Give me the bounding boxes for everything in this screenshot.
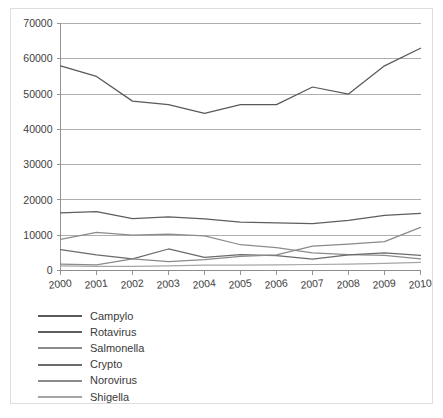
legend-line-swatch-icon <box>38 380 82 382</box>
legend-line-swatch-icon <box>38 396 82 398</box>
legend-item-rotavirus[interactable]: Rotavirus <box>38 324 298 340</box>
y-tick-label: 60000 <box>23 52 52 64</box>
legend-line-swatch-icon <box>38 347 82 349</box>
x-tick-label: 2008 <box>336 276 361 290</box>
legend-item-label: Campylo <box>90 311 133 322</box>
y-tick-label: 70000 <box>23 17 52 29</box>
y-tick-label: 40000 <box>23 123 52 135</box>
legend-line-swatch-icon <box>38 331 82 333</box>
legend-item-label: Crypto <box>90 359 122 370</box>
legend-item-crypto[interactable]: Crypto <box>38 357 298 373</box>
y-tick-label: 0 <box>47 264 53 276</box>
y-tick-label: 10000 <box>23 229 52 241</box>
series-line-campylo <box>61 48 421 113</box>
legend-item-label: Norovirus <box>90 375 137 386</box>
x-tick-label: 2000 <box>48 276 73 290</box>
y-tick-label: 20000 <box>23 194 52 206</box>
series-lines <box>61 48 421 266</box>
x-tick-label: 2003 <box>156 276 181 290</box>
legend-line-swatch-icon <box>38 315 82 317</box>
x-tick-label: 2001 <box>84 276 109 290</box>
legend-item-campylo[interactable]: Campylo <box>38 308 298 324</box>
legend-item-label: Rotavirus <box>90 327 136 338</box>
x-tick-label: 2006 <box>264 276 289 290</box>
legend-item-norovirus[interactable]: Norovirus <box>38 373 298 389</box>
legend-item-shigella[interactable]: Shigella <box>38 389 298 405</box>
series-line-norovirus <box>61 227 421 264</box>
series-line-shigella <box>61 262 421 266</box>
axis-tickmarks <box>57 24 421 275</box>
legend-item-salmonella[interactable]: Salmonella <box>38 340 298 356</box>
y-tick-label: 50000 <box>23 88 52 100</box>
legend-item-label: Salmonella <box>90 343 144 354</box>
x-tick-label: 2007 <box>300 276 325 290</box>
line-chart-plot: 010000200003000040000500006000070000 200… <box>0 0 443 300</box>
x-tick-label: 2004 <box>192 276 217 290</box>
series-line-crypto <box>61 249 421 259</box>
y-axis-tick-labels: 010000200003000040000500006000070000 <box>23 17 52 276</box>
x-tick-label: 2009 <box>372 276 397 290</box>
y-tick-label: 30000 <box>23 158 52 170</box>
x-tick-label: 2005 <box>228 276 253 290</box>
x-axis-tick-labels: 2000200120022003200420052006200720082009… <box>48 276 433 290</box>
legend-line-swatch-icon <box>38 364 82 366</box>
x-tick-label: 2002 <box>120 276 145 290</box>
x-tick-label: 2010 <box>408 276 433 290</box>
chart-figure: 010000200003000040000500006000070000 200… <box>0 0 443 418</box>
chart-legend: CampyloRotavirusSalmonellaCryptoNoroviru… <box>38 308 298 405</box>
series-line-rotavirus <box>61 212 421 224</box>
legend-item-label: Shigella <box>90 392 129 403</box>
